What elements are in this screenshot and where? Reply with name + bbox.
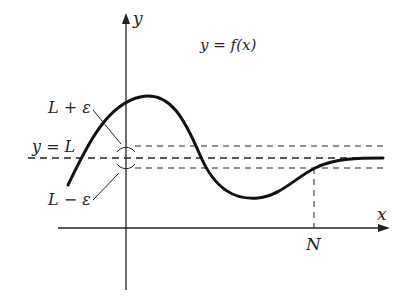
y-axis-arrow-icon	[122, 13, 130, 24]
function-label: y = f(x)	[199, 36, 256, 54]
upper-band-label: L + ε	[47, 98, 91, 117]
x-axis-label: x	[377, 204, 387, 224]
function-curve	[68, 96, 383, 198]
n-label: N	[305, 234, 322, 254]
upper-label-leader	[93, 110, 121, 144]
lower-label-leader	[93, 173, 119, 200]
x-axis-arrow-icon	[378, 224, 390, 232]
limit-diagram: y x N y = f(x) L + ε y = L L − ε	[0, 0, 399, 306]
limit-label: y = L	[31, 137, 75, 156]
lower-band-label: L − ε	[47, 190, 91, 209]
y-axis-label: y	[132, 8, 143, 28]
